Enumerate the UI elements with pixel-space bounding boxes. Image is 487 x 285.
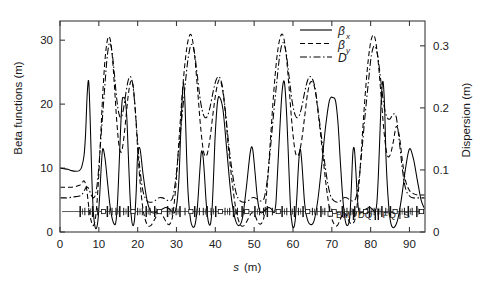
lattice-magnet	[320, 206, 322, 217]
x-tick-label: 40	[209, 238, 222, 250]
x-tick-label: 80	[364, 238, 377, 250]
lattice-magnet	[126, 209, 127, 215]
y-tick-label: 0	[47, 226, 53, 238]
lattice-magnet	[213, 209, 214, 215]
lattice-magnet	[418, 209, 419, 215]
magnet-legend-symbol-s	[399, 210, 400, 219]
y-tick-label: 20	[40, 98, 53, 110]
lattice-magnet	[203, 208, 204, 216]
lattice-magnet	[350, 208, 351, 216]
lattice-magnet	[263, 208, 264, 216]
lattice-magnet	[215, 206, 217, 217]
lattice-magnet	[123, 208, 124, 216]
lattice-bending-magnet	[245, 209, 249, 213]
lattice-magnet	[82, 209, 83, 215]
y2-axis-label: Dispersion (m)	[460, 82, 472, 157]
lattice-magnet	[265, 209, 266, 215]
x-tick-label: 20	[131, 238, 144, 250]
x-axis-label: s	[233, 261, 239, 273]
lattice-magnet	[312, 208, 313, 216]
lattice-magnet	[374, 208, 375, 216]
magnet-legend-symbol-fq2	[378, 209, 379, 220]
lattice-magnet	[254, 206, 256, 217]
lattice-magnet	[267, 206, 269, 217]
magnet-legend-symbol-fq	[375, 209, 376, 220]
lattice-magnet	[272, 208, 273, 216]
x-tick-label: 10	[92, 238, 105, 250]
beta-function-chart: 0102030405060708090010203000.10.20.3 βxβ…	[0, 0, 487, 285]
lattice-magnet	[150, 208, 151, 216]
lattice-bending-magnet	[189, 209, 193, 213]
lattice-magnet	[109, 209, 110, 215]
lattice-magnet	[380, 209, 381, 215]
lattice-magnet	[244, 209, 245, 215]
lattice-magnet	[112, 208, 113, 216]
lattice-magnet	[211, 208, 212, 216]
lattice-magnet	[402, 209, 403, 215]
lattice-magnet	[128, 206, 130, 217]
lattice-magnet	[235, 209, 236, 215]
y2-tick-label: 0.2	[433, 102, 449, 114]
lattice-magnet	[314, 209, 315, 215]
lattice-magnet	[194, 206, 196, 217]
lattice-magnet	[137, 208, 138, 216]
lattice-bending-magnet	[419, 209, 423, 213]
lattice-magnet	[257, 209, 258, 215]
x-tick-label: 0	[57, 238, 63, 250]
lattice-magnet	[324, 208, 325, 216]
magnet-legend-label-bm: BM	[336, 209, 350, 220]
lattice-magnet	[225, 208, 226, 216]
lattice-magnet	[281, 206, 283, 217]
y-axis-label: Beta functions (m)	[12, 61, 24, 154]
lattice-magnet	[197, 209, 198, 215]
lattice-magnet	[300, 209, 301, 215]
lattice-magnet	[118, 209, 119, 215]
lattice-magnet	[142, 208, 143, 216]
lattice-magnet	[259, 208, 260, 216]
lattice-magnet	[412, 208, 413, 216]
lattice-magnet	[92, 206, 94, 217]
lattice-magnet	[227, 209, 228, 215]
lattice-magnet	[115, 208, 116, 216]
legend-label-beta_x: β	[337, 24, 345, 38]
lattice-bending-magnet	[276, 209, 280, 213]
lattice-magnet	[119, 206, 121, 217]
figure-container: 0102030405060708090010203000.10.20.3 βxβ…	[0, 0, 487, 285]
x-tick-label: 30	[170, 238, 183, 250]
legend-label-beta_y: β	[337, 38, 345, 52]
lattice-bending-magnet	[131, 209, 135, 213]
lattice-magnet	[323, 209, 324, 215]
lattice-magnet	[292, 209, 293, 215]
lattice-magnet	[298, 208, 299, 216]
lattice-magnet	[233, 206, 235, 217]
magnet-legend-symbol-dq	[353, 209, 355, 220]
y2-tick-label: 0.3	[433, 40, 449, 52]
x-axis-label-units: (m)	[244, 261, 261, 273]
lattice-magnet	[90, 209, 91, 215]
lattice-magnet	[170, 209, 171, 215]
lattice-magnet	[176, 208, 177, 216]
x-tick-label: 90	[403, 238, 416, 250]
lattice-bending-magnet	[157, 209, 161, 213]
legend-label-D: D	[338, 51, 347, 65]
lattice-magnet	[286, 208, 287, 216]
lattice-bending-magnet	[306, 209, 310, 213]
lattice-magnet	[172, 208, 173, 216]
lattice-magnet	[237, 208, 238, 216]
x-tick-label: 70	[325, 238, 338, 250]
lattice-magnet	[302, 206, 304, 217]
lattice-magnet	[97, 208, 98, 216]
lattice-magnet	[185, 208, 186, 216]
lattice-magnet	[79, 206, 81, 217]
y-tick-label: 10	[40, 162, 53, 174]
lattice-magnet	[416, 206, 418, 217]
y2-tick-label: 0.1	[433, 164, 449, 176]
lattice-bending-magnet	[101, 209, 105, 213]
lattice-magnet	[107, 206, 109, 217]
lattice-magnet	[205, 209, 206, 215]
lattice-magnet	[84, 208, 85, 216]
magnet-legend-label-dq: DQ	[358, 209, 372, 220]
lattice-magnet	[140, 209, 141, 215]
lattice-magnet	[206, 206, 208, 217]
magnet-legend-symbol-bm	[328, 212, 333, 217]
